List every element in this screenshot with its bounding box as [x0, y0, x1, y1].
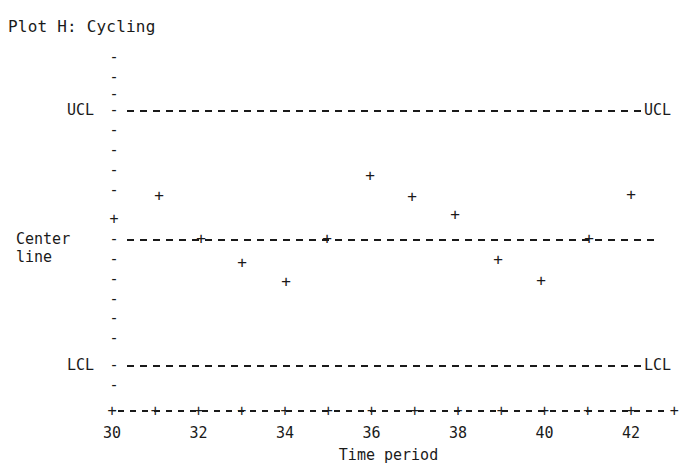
data-point-marker: +: [404, 189, 420, 205]
x-axis-tick-label: 36: [352, 424, 392, 442]
data-point-marker: +: [234, 255, 250, 271]
x-axis-tick-mark: +: [581, 403, 595, 419]
data-point-marker: +: [278, 274, 294, 290]
y-axis-tick: +: [107, 211, 121, 227]
data-point-marker: +: [319, 231, 335, 247]
y-axis-tick: -: [107, 377, 121, 393]
lcl-reference-line: [127, 365, 641, 367]
x-axis-tick-label: 34: [265, 424, 305, 442]
ucl-label-right: UCL: [644, 101, 671, 119]
x-axis-tick-mark: +: [235, 403, 249, 419]
data-point-marker: +: [533, 273, 549, 289]
y-axis-tick: -: [107, 142, 121, 158]
y-axis: --------+---------: [107, 40, 121, 420]
data-point-marker: +: [581, 231, 597, 247]
lcl-label-left: LCL: [0, 356, 94, 374]
y-axis-tick: -: [107, 291, 121, 307]
x-axis-tick-mark: +: [365, 403, 379, 419]
y-axis-tick: -: [107, 251, 121, 267]
lcl-label-right: LCL: [644, 356, 671, 374]
x-axis-tick-mark: +: [494, 403, 508, 419]
x-axis-tick-mark: +: [667, 403, 681, 419]
y-axis-tick: -: [107, 49, 121, 65]
page-title: Plot H: Cycling: [8, 17, 156, 36]
data-point-marker: +: [151, 188, 167, 204]
y-axis-tick: -: [107, 271, 121, 287]
y-axis-tick: -: [107, 231, 121, 247]
x-axis-tick-label: 40: [525, 424, 565, 442]
x-axis-tick-mark: +: [192, 403, 206, 419]
x-axis-tick-mark: +: [105, 403, 119, 419]
x-axis-title: Time period: [0, 446, 697, 464]
ucl-reference-line: [127, 110, 641, 112]
x-axis-tick-mark: +: [278, 403, 292, 419]
x-axis-tick-label: 38: [438, 424, 478, 442]
y-axis-tick: -: [107, 357, 121, 373]
y-axis-tick: -: [107, 162, 121, 178]
y-axis-tick: -: [107, 310, 121, 326]
y-axis-tick: -: [107, 330, 121, 346]
data-point-marker: +: [623, 187, 639, 203]
x-axis-tick-mark: +: [451, 403, 465, 419]
x-axis-tick-mark: +: [148, 403, 162, 419]
x-axis-tick-label: 42: [611, 424, 651, 442]
x-axis-tick-mark: +: [624, 403, 638, 419]
center-line-label: Center line: [0, 230, 96, 266]
data-point-marker: +: [362, 168, 378, 184]
y-axis-tick: -: [107, 69, 121, 85]
y-axis-tick: -: [107, 102, 121, 118]
ucl-label-left: UCL: [0, 101, 94, 119]
y-axis-tick: -: [107, 182, 121, 198]
data-point-marker: +: [193, 231, 209, 247]
x-axis-tick-mark: +: [408, 403, 422, 419]
y-axis-tick: -: [107, 86, 121, 102]
y-axis-tick: -: [107, 122, 121, 138]
x-axis-tick-label: 30: [92, 424, 132, 442]
x-axis-tick-mark: +: [321, 403, 335, 419]
x-axis-tick-mark: +: [538, 403, 552, 419]
data-point-marker: +: [447, 207, 463, 223]
x-axis-tick-label: 32: [179, 424, 219, 442]
data-point-marker: +: [490, 252, 506, 268]
control-chart-plot: Plot H: Cycling --------+--------- UCL U…: [0, 0, 697, 476]
